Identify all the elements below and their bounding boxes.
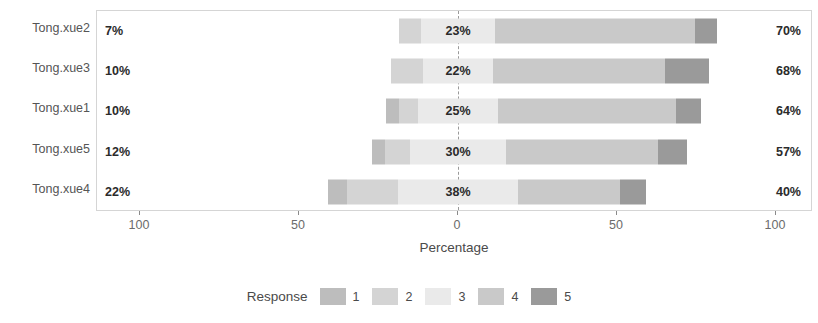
legend: Response 12345 <box>0 288 818 305</box>
bar-row: 25%10%64% <box>97 91 811 131</box>
y-axis-label-1: Tong.xue3 <box>32 62 90 75</box>
x-axis-tick-mark <box>139 211 140 215</box>
neutral-percent-label: 25% <box>445 104 470 118</box>
legend-items: 12345 <box>320 288 572 305</box>
legend-item-label: 2 <box>405 290 412 304</box>
likert-diverging-bar-chart: Tong.xue2 Tong.xue3 Tong.xue1 Tong.xue5 … <box>0 0 818 323</box>
positive-percent-label: 70% <box>776 24 801 38</box>
legend-item-label: 3 <box>458 290 465 304</box>
bar-row: 38%22%40% <box>97 172 811 212</box>
bar-segment-response-2 <box>385 139 410 164</box>
neutral-percent-label: 30% <box>445 145 470 159</box>
bar-segment-response-1 <box>328 179 347 204</box>
positive-percent-label: 68% <box>776 64 801 78</box>
legend-item-response-1[interactable]: 1 <box>320 288 373 305</box>
bar-segment-response-5 <box>665 59 710 84</box>
x-axis-tick-label: 0 <box>454 218 461 232</box>
x-axis-tick-label: 100 <box>765 218 786 232</box>
bar-segment-response-2 <box>399 99 418 124</box>
x-axis-tick-mark <box>616 211 617 215</box>
bar-segment-response-2 <box>347 179 398 204</box>
y-axis-label-3: Tong.xue5 <box>32 143 90 156</box>
x-axis-tick-mark <box>457 211 458 215</box>
y-axis-label-4: Tong.xue4 <box>32 183 90 196</box>
negative-percent-label: 7% <box>105 24 123 38</box>
bar-segment-response-2 <box>391 59 423 84</box>
bar-segment-response-4 <box>495 19 695 44</box>
stacked-bar <box>372 139 687 164</box>
legend-item-label: 4 <box>511 290 518 304</box>
bar-segment-response-4 <box>493 59 665 84</box>
stacked-bar <box>391 59 709 84</box>
x-axis-tick-label: 50 <box>291 218 305 232</box>
bar-segment-response-4 <box>498 99 676 124</box>
bar-segment-response-5 <box>658 139 687 164</box>
legend-title: Response <box>247 289 308 304</box>
bar-segment-response-5 <box>695 19 717 44</box>
bar-segment-response-5 <box>620 179 645 204</box>
x-axis-tick-mark <box>298 211 299 215</box>
legend-item-label: 1 <box>353 290 360 304</box>
legend-item-response-3[interactable]: 3 <box>425 288 478 305</box>
neutral-percent-label: 38% <box>445 185 470 199</box>
positive-percent-label: 64% <box>776 104 801 118</box>
x-axis: 10050050100 <box>96 211 812 241</box>
positive-percent-label: 57% <box>776 145 801 159</box>
legend-item-label: 5 <box>564 290 571 304</box>
negative-percent-label: 22% <box>105 185 130 199</box>
bar-row: 22%10%68% <box>97 51 811 91</box>
bar-segment-response-5 <box>676 99 701 124</box>
legend-swatch-icon <box>478 288 504 305</box>
x-axis-tick-mark <box>775 211 776 215</box>
bar-segment-response-1 <box>386 99 399 124</box>
y-axis-category-labels: Tong.xue2 Tong.xue3 Tong.xue1 Tong.xue5 … <box>0 10 90 211</box>
legend-swatch-icon <box>425 288 451 305</box>
bar-segment-response-1 <box>372 139 385 164</box>
legend-swatch-icon <box>372 288 398 305</box>
bar-segment-response-4 <box>518 179 620 204</box>
y-axis-label-0: Tong.xue2 <box>32 22 90 35</box>
neutral-percent-label: 22% <box>445 64 470 78</box>
x-axis-tick-label: 100 <box>129 218 150 232</box>
bar-row: 30%12%57% <box>97 132 811 172</box>
bar-segment-response-2 <box>399 19 421 44</box>
legend-item-response-4[interactable]: 4 <box>478 288 531 305</box>
stacked-bar <box>386 99 701 124</box>
legend-item-response-5[interactable]: 5 <box>531 288 571 305</box>
neutral-percent-label: 23% <box>445 24 470 38</box>
plot-panel: 23%7%70%22%10%68%25%10%64%30%12%57%38%22… <box>96 10 812 211</box>
positive-percent-label: 40% <box>776 185 801 199</box>
x-axis-tick-label: 50 <box>609 218 623 232</box>
legend-item-response-2[interactable]: 2 <box>372 288 425 305</box>
bar-segment-response-4 <box>506 139 659 164</box>
negative-percent-label: 12% <box>105 145 130 159</box>
legend-swatch-icon <box>531 288 557 305</box>
bar-row: 23%7%70% <box>97 11 811 51</box>
x-axis-title: Percentage <box>96 240 812 255</box>
stacked-bar <box>328 179 646 204</box>
negative-percent-label: 10% <box>105 104 130 118</box>
y-axis-label-2: Tong.xue1 <box>32 102 90 115</box>
legend-swatch-icon <box>320 288 346 305</box>
negative-percent-label: 10% <box>105 64 130 78</box>
